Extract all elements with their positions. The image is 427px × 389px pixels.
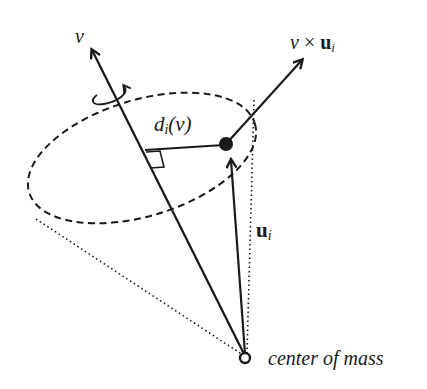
center-of-mass-marker bbox=[240, 353, 250, 363]
label-distance-d: d bbox=[154, 112, 165, 136]
cone-edge-left bbox=[36, 219, 243, 355]
v-axis-arrow bbox=[92, 50, 244, 354]
label-distance-arg: (v) bbox=[168, 112, 191, 136]
label-cross-u: u bbox=[320, 31, 331, 53]
u-i-arrow bbox=[231, 160, 245, 354]
label-v: v bbox=[75, 26, 84, 46]
label-cross-op: × bbox=[299, 31, 320, 53]
label-u-i: ui bbox=[256, 220, 271, 243]
label-u-sub: i bbox=[268, 228, 272, 243]
label-cross-sub: i bbox=[331, 40, 335, 55]
label-cross-product: v × ui bbox=[290, 32, 335, 54]
label-cross-v: v bbox=[290, 31, 299, 53]
label-u: u bbox=[256, 218, 268, 242]
label-distance: di(v) bbox=[154, 114, 192, 137]
distance-line bbox=[145, 145, 224, 150]
diagram-canvas bbox=[0, 0, 427, 389]
rotation-ellipse bbox=[12, 68, 272, 248]
label-center-of-mass: center of mass bbox=[268, 348, 384, 368]
point-mass-dot bbox=[219, 137, 233, 151]
cone-edge-right bbox=[247, 100, 254, 353]
cross-product-arrow bbox=[226, 60, 302, 144]
rotation-arrow-icon bbox=[93, 86, 125, 104]
